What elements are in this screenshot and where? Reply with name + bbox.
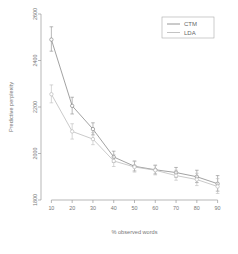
x-axis-tick-label: 50 [132, 205, 138, 211]
y-axis-tick-label: 2400 [32, 55, 38, 67]
data-point-marker [174, 174, 177, 177]
legend-label-ctm: CTM [184, 21, 197, 27]
x-axis-tick-label: 90 [215, 205, 221, 211]
y-axis-title: Predictive perplexity [8, 82, 14, 132]
x-axis-tick-label: 80 [194, 205, 200, 211]
legend-label-lda: LDA [184, 30, 196, 36]
y-axis-tick-label: 1800 [32, 194, 38, 206]
data-point-marker [216, 185, 219, 188]
y-axis-tick-label: 2600 [32, 8, 38, 20]
series-line [51, 94, 217, 186]
y-axis: 18002000220024002600Predictive perplexit… [8, 8, 41, 206]
data-point-marker [112, 159, 115, 162]
x-axis-tick-label: 10 [48, 205, 54, 211]
data-point-marker [91, 137, 94, 140]
data-point-marker [195, 178, 198, 181]
y-axis-tick-label: 2000 [32, 148, 38, 160]
data-point-marker [50, 93, 53, 96]
x-axis-title: % observed words [111, 229, 157, 235]
data-point-marker [70, 130, 73, 133]
legend: CTMLDA [162, 17, 214, 38]
x-axis-tick-label: 20 [69, 205, 75, 211]
x-axis-tick-label: 40 [111, 205, 117, 211]
chart-figure: 18002000220024002600Predictive perplexit… [0, 0, 238, 254]
data-point-marker [133, 165, 136, 168]
x-axis-tick-label: 60 [152, 205, 158, 211]
data-point-marker [70, 104, 73, 107]
x-axis-tick-label: 30 [90, 205, 96, 211]
perplexity-line-chart: 18002000220024002600Predictive perplexit… [0, 0, 238, 254]
data-point-marker [50, 38, 53, 41]
series-lda [50, 85, 220, 194]
data-point-marker [154, 169, 157, 172]
data-point-marker [91, 127, 94, 130]
y-axis-tick-label: 2200 [32, 101, 38, 113]
x-axis-tick-label: 70 [173, 205, 179, 211]
x-axis: 102030405060708090% observed words [48, 200, 220, 235]
